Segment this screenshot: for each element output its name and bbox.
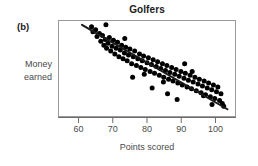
data-point (160, 61, 165, 66)
data-point (98, 39, 103, 44)
data-point (164, 63, 169, 68)
data-point (132, 49, 137, 54)
data-point (152, 71, 157, 76)
x-tick-label: 100 (201, 124, 231, 134)
data-point (150, 85, 155, 90)
data-point (214, 89, 219, 94)
data-point (104, 46, 109, 51)
data-point (148, 69, 153, 74)
data-point (142, 72, 147, 77)
data-point (191, 80, 196, 85)
data-point (196, 82, 201, 87)
data-point (169, 65, 174, 70)
data-point (108, 49, 113, 54)
data-point (206, 81, 211, 86)
data-point (205, 85, 210, 90)
data-point (161, 80, 166, 85)
data-point (103, 22, 108, 27)
data-point (211, 82, 216, 87)
data-point (172, 72, 177, 77)
data-point (177, 74, 182, 79)
data-point (175, 97, 180, 102)
data-point (130, 75, 135, 80)
data-point (202, 79, 207, 84)
data-point (190, 69, 195, 74)
data-point (218, 91, 223, 96)
scatter-plot-figure: (b) Golfers Money earned 60708090100 Poi… (0, 0, 258, 166)
data-point (197, 77, 202, 82)
x-tick-label: 60 (64, 124, 94, 134)
data-point (112, 51, 117, 56)
data-point (125, 58, 130, 63)
data-point (155, 59, 160, 64)
data-point (161, 75, 166, 80)
data-point (165, 91, 170, 96)
x-tick-label: 70 (98, 124, 128, 134)
data-point (181, 76, 186, 81)
data-point (186, 78, 191, 83)
x-tick-label: 80 (132, 124, 162, 134)
data-point (166, 77, 171, 82)
data-point (182, 61, 187, 66)
x-axis-label: Points scored (58, 142, 236, 152)
data-point (178, 69, 183, 74)
data-point (141, 53, 146, 58)
data-point (138, 65, 143, 70)
data-point (215, 84, 220, 89)
data-point (129, 61, 134, 66)
trend-line (82, 25, 227, 109)
data-point (210, 102, 215, 107)
data-point (134, 63, 139, 68)
data-point (122, 36, 127, 41)
x-tick-label: 90 (166, 124, 196, 134)
data-point (157, 73, 162, 78)
data-point (143, 67, 148, 72)
data-point (200, 83, 205, 88)
x-axis (58, 118, 236, 124)
data-point (209, 87, 214, 92)
data-point (151, 57, 156, 62)
data-point (183, 71, 188, 76)
data-point (146, 55, 151, 60)
data-point (174, 67, 179, 72)
data-point (192, 75, 197, 80)
